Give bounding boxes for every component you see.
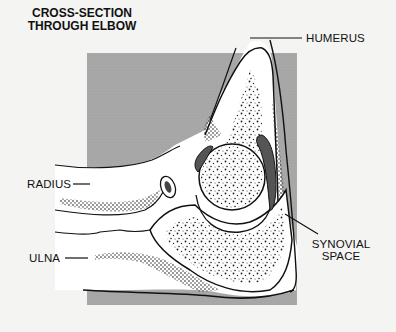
label-synovial-line-2: SPACE [308,250,374,262]
humeral-condyle-marrow [201,146,263,208]
label-ulna: ULNA [29,252,60,264]
label-radius: RADIUS [27,178,71,190]
elbow-cross-section-illustration [0,0,396,332]
label-humerus: HUMERUS [306,32,365,44]
label-synovial-line-1: SYNOVIAL [308,238,374,250]
label-synovial-space: SYNOVIAL SPACE [308,238,374,262]
